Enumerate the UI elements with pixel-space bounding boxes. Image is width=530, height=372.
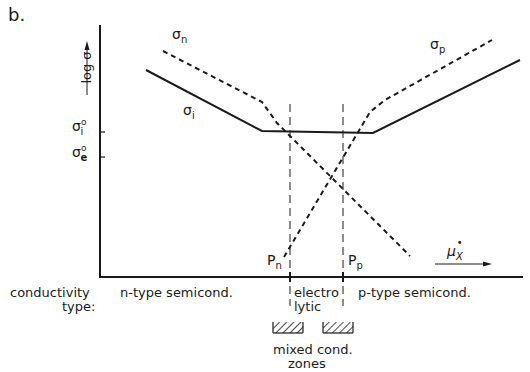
curve-sigma-n [163, 51, 410, 256]
x-axis-label-mu: μX• [447, 243, 463, 259]
mixed-zone-p [323, 322, 353, 333]
region-electrolytic-line2: lytic [294, 299, 321, 314]
label-sigma-n: σn [172, 26, 187, 42]
curve-sigma-i [146, 60, 520, 133]
conductivity-type-label-line2: type: [62, 299, 95, 314]
region-p-type: p-type semicond. [358, 285, 471, 300]
tick-label-sigma-e: σoe [72, 144, 87, 160]
arrow-right-icon [483, 262, 492, 267]
mixed-zones-label-line2: zones [288, 356, 326, 371]
panel-label: b. [8, 4, 25, 25]
conductivity-type-label-line1: conductivity [10, 285, 90, 300]
mixed-zone-n [273, 322, 303, 333]
y-axis-label: log σ [79, 38, 94, 98]
mixed-zones-label-line1: mixed cond. [273, 342, 353, 357]
region-n-type: n-type semicond. [120, 285, 233, 300]
region-electrolytic-line1: electro [294, 285, 339, 300]
tick-label-sigma-i: σoi [72, 118, 83, 134]
curve-sigma-p [284, 40, 492, 257]
label-sigma-p: σp [430, 36, 445, 52]
label-pn: Pn [267, 252, 282, 268]
label-pp: Pp [348, 252, 363, 268]
label-sigma-i: σi [183, 102, 195, 118]
